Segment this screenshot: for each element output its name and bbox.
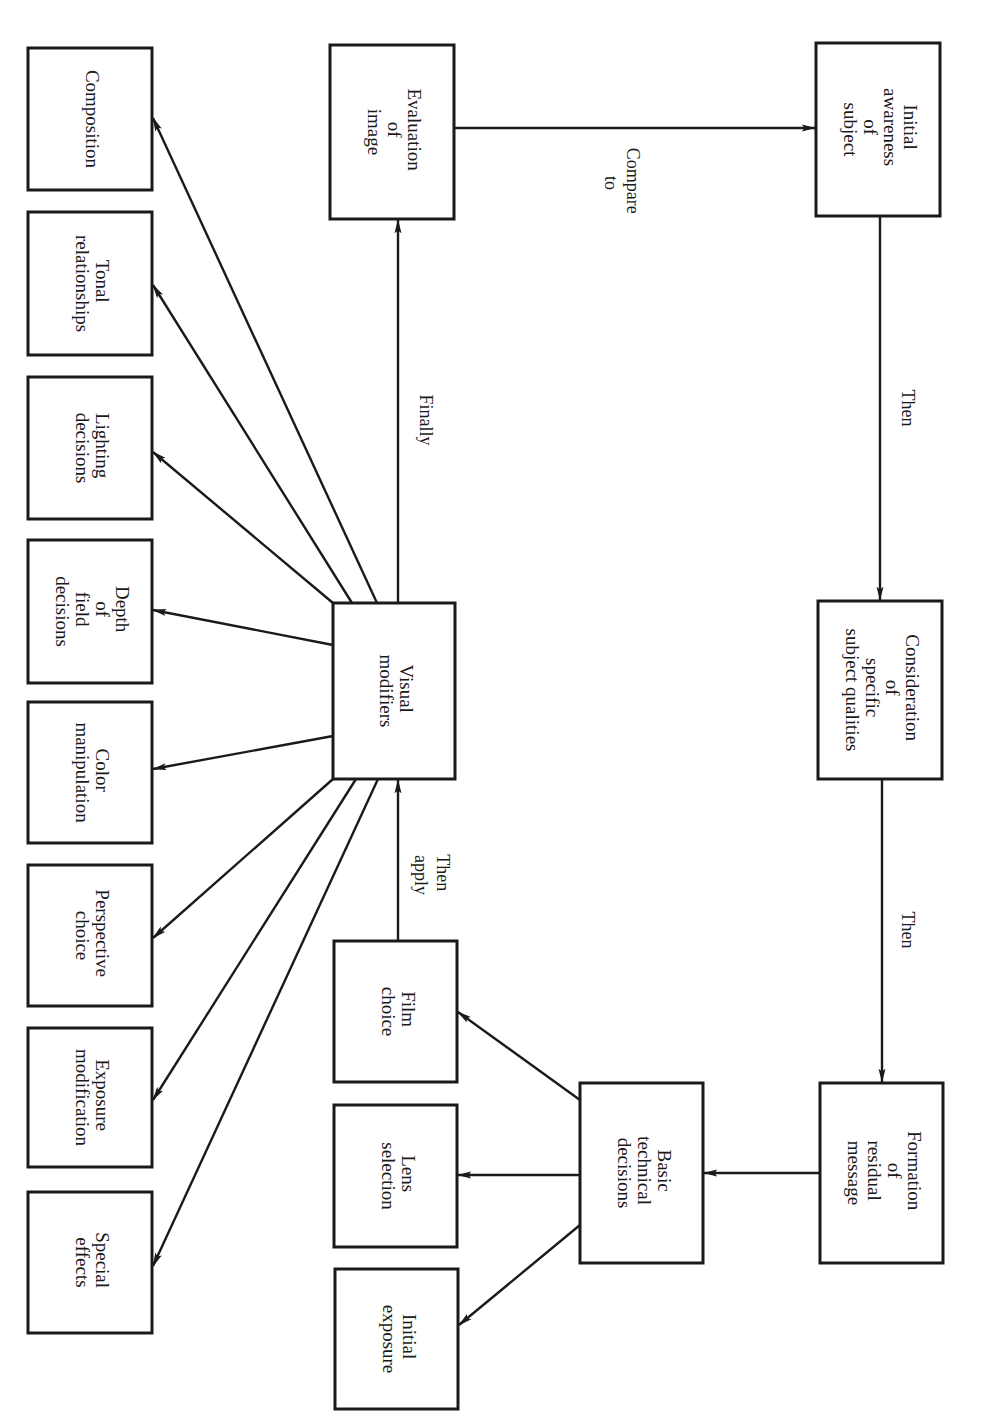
node-label: Special effects <box>72 1232 113 1293</box>
node-label: Formation of residual message <box>844 1131 925 1215</box>
node-label: Visual modifiers <box>376 655 417 728</box>
node-composition: Composition <box>28 48 152 190</box>
node-initial-exposure: Initial exposure <box>335 1269 458 1409</box>
node-special-effects: Special effects <box>28 1192 152 1333</box>
node-initial-awareness: Initial awareness of subject <box>816 43 940 216</box>
node-tonal-relationships: Tonal relationships <box>28 212 152 355</box>
edge-label-then-1: Then <box>898 390 918 427</box>
node-exposure-modification: Exposure modification <box>28 1028 152 1167</box>
edges <box>153 118 882 1325</box>
node-label: Initial exposure <box>379 1305 420 1374</box>
node-label: Composition <box>82 70 103 169</box>
node-lens-selection: Lens selection <box>334 1105 457 1247</box>
node-label: Film choice <box>378 987 419 1037</box>
node-consideration: Consideration of specific subject qualit… <box>818 601 942 779</box>
edge-label-then-apply: Then apply <box>411 854 453 895</box>
edge-labels: Then Then Then apply Finally Compare to <box>411 148 918 949</box>
edge-visual-to-exposure-mod <box>153 779 356 1100</box>
node-label: Lighting decisions <box>72 413 113 484</box>
edge-visual-to-depth <box>153 610 333 645</box>
node-label: Exposure modification <box>72 1049 113 1147</box>
flow-diagram: Then Then Then apply Finally Compare to … <box>0 0 990 1413</box>
node-lighting-decisions: Lighting decisions <box>28 377 152 519</box>
edge-label-then-2: Then <box>898 912 918 949</box>
node-depth-of-field-decisions: Depth of field decisions <box>28 540 152 683</box>
edge-basic-to-exposure <box>459 1225 580 1325</box>
node-color-manipulation: Color manipulation <box>28 702 152 843</box>
edge-label-compare-to: Compare to <box>601 148 643 218</box>
node-basic-technical-decisions: Basic technical decisions <box>580 1083 703 1263</box>
node-visual-modifiers: Visual modifiers <box>333 603 455 779</box>
edge-visual-to-color <box>153 736 333 769</box>
edge-label-finally: Finally <box>416 394 436 445</box>
node-film-choice: Film choice <box>334 941 457 1082</box>
node-perspective-choice: Perspective choice <box>28 865 152 1006</box>
edge-basic-to-film <box>458 1012 580 1100</box>
node-formation: Formation of residual message <box>820 1083 943 1263</box>
node-evaluation-of-image: Evaluation of image <box>330 45 454 219</box>
